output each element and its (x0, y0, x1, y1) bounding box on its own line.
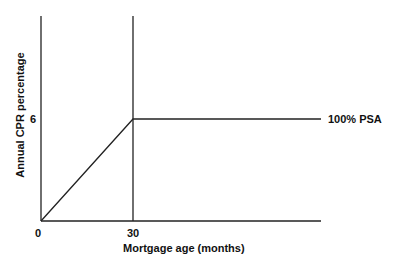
x-tick-0: 0 (35, 227, 41, 239)
series-label: 100% PSA (328, 113, 382, 125)
psa-series-line (41, 119, 321, 221)
x-tick-30: 30 (127, 227, 139, 239)
x-axis-label: Mortgage age (months) (123, 242, 245, 254)
chart-canvas (0, 0, 395, 263)
y-tick-6: 6 (30, 113, 36, 125)
y-axis-label: Annual CPR percentage (14, 50, 26, 180)
